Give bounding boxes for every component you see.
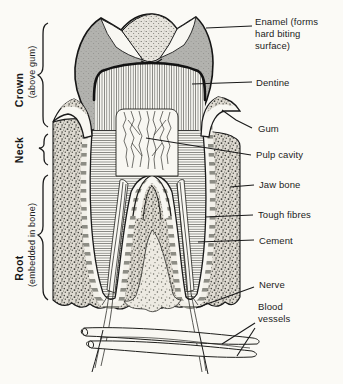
label-pulp-cavity: Pulp cavity xyxy=(256,149,303,161)
label-blood-vessels: Blood vessels xyxy=(258,301,302,325)
crown-label: Crown xyxy=(13,73,25,108)
tooth-illustration: Crown (above gum) Neck Root (embedded in… xyxy=(0,0,343,384)
neck-label: Neck xyxy=(13,137,25,164)
region-labels: Crown (above gum) Neck Root (embedded in… xyxy=(13,46,37,287)
root-sublabel: (embedded in bone) xyxy=(27,203,37,287)
region-brackets xyxy=(38,23,48,300)
root-label: Root xyxy=(13,255,25,281)
blood-vessels xyxy=(81,328,259,374)
label-nerve: Nerve xyxy=(259,279,285,291)
label-dentine: Dentine xyxy=(256,77,289,89)
label-cement: Cement xyxy=(259,235,293,247)
label-enamel: Enamel (forms hard biting surface) xyxy=(255,16,331,52)
crown-bracket xyxy=(38,23,48,127)
leader-gum xyxy=(222,110,252,128)
label-tough-fibres: Tough fibres xyxy=(258,209,311,221)
root-bracket xyxy=(38,175,48,300)
label-jaw-bone: Jaw bone xyxy=(259,179,300,191)
tooth-diagram-figure: Crown (above gum) Neck Root (embedded in… xyxy=(0,0,343,384)
crown-sublabel: (above gum) xyxy=(27,46,37,99)
neck-bracket xyxy=(39,134,48,165)
label-gum: Gum xyxy=(258,123,279,135)
leader-enamel xyxy=(206,26,252,28)
